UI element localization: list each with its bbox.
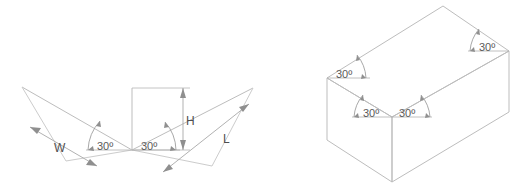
box-angle-label-top-left: 30º: [336, 68, 352, 80]
label-length: L: [223, 132, 230, 146]
angle-label-left: 30º: [97, 140, 113, 152]
label-width: W: [54, 141, 66, 155]
arrowhead-height-top: [180, 88, 186, 98]
arrowhead-height-bottom: [180, 140, 186, 150]
box-angle-label-top-right: 30º: [479, 41, 495, 53]
box-angle-label-front-left: 30º: [363, 107, 379, 119]
dimension-line-length: [163, 104, 249, 172]
arrowhead-angle-right-tip: [164, 122, 169, 128]
left-isometric-axes: W H L 30º 30º: [22, 87, 253, 172]
right-isometric-box: 30º 30º 30º 30º: [327, 6, 509, 182]
arrowhead-angle-left-tip: [96, 121, 101, 127]
angle-label-right: 30º: [141, 140, 157, 152]
box-left-face: [327, 78, 392, 182]
label-height: H: [186, 114, 195, 128]
technical-drawing-canvas: W H L 30º 30º: [0, 0, 524, 195]
axis-line-width: [22, 87, 132, 150]
box-top-face: [327, 6, 509, 117]
construction-line-right-bottom: [132, 150, 212, 166]
construction-line-right-far: [212, 88, 253, 166]
box-angle-label-front-right: 30º: [399, 107, 415, 119]
